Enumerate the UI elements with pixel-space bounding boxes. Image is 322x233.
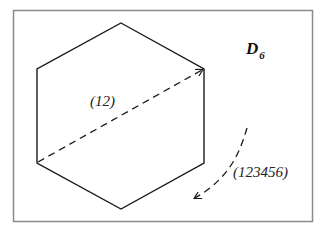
reflection-label: (12) [90, 93, 115, 110]
diagram-canvas: (12) (123456) D6 [0, 0, 322, 233]
hexagon-shape [37, 23, 204, 209]
group-subscript: 6 [259, 49, 265, 61]
group-letter: D [245, 39, 258, 58]
reflection-arrow [38, 70, 202, 162]
group-label: D6 [245, 39, 265, 61]
rotation-label: (123456) [233, 164, 288, 181]
frame-border [14, 11, 313, 222]
d6-diagram: (12) (123456) D6 [0, 0, 322, 233]
